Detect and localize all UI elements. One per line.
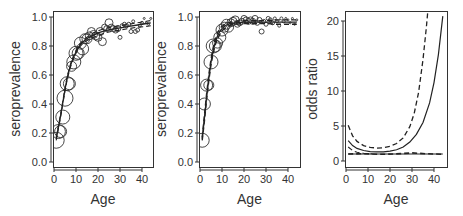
y-tick-label: 0.8 (178, 40, 193, 52)
y-tick-label: 10 (327, 85, 339, 97)
y-tick-label: 0.2 (178, 127, 193, 139)
data-point (259, 29, 264, 34)
data-point (150, 17, 152, 19)
x-tick-label: 40 (282, 173, 294, 185)
x-tick-label: 0 (51, 173, 57, 185)
plot-area (48, 17, 152, 148)
x-tick-label: 40 (428, 173, 440, 185)
plot-area (195, 15, 298, 147)
panel-seroprevalence-left: 010203040Age0.00.20.40.60.81.0seropreval… (7, 11, 154, 207)
y-axis: 0.00.20.40.60.81.0 (32, 11, 53, 168)
data-points (48, 17, 152, 148)
y-axis: 0.00.20.40.60.81.0 (178, 11, 199, 168)
x-tick-label: 40 (136, 173, 148, 185)
y-tick-label: 0.8 (32, 40, 47, 52)
x-tick-label: 30 (260, 173, 272, 185)
panel-seroprevalence-middle: 010203040Age0.00.20.40.60.81.0seropreval… (153, 11, 301, 207)
x-axis: 010203040 (197, 168, 294, 185)
x-axis: 010203040 (51, 168, 148, 185)
data-point (132, 20, 135, 23)
x-tick-label: 20 (92, 173, 104, 185)
y-axis: 05101520 (327, 15, 345, 167)
data-points (195, 15, 298, 147)
y-tick-label: 0.6 (32, 69, 47, 81)
series-solid-line (202, 22, 297, 139)
data-point (129, 30, 133, 34)
chart-canvas: 010203040Age0.00.20.40.60.81.0seropreval… (0, 0, 463, 216)
x-tick-label: 30 (406, 173, 418, 185)
panel-odds-ratio-right: 010203040Age05101520odds ratio (304, 4, 448, 208)
x-axis-label: Age (384, 191, 409, 207)
x-tick-label: 10 (216, 173, 228, 185)
y-tick-label: 1.0 (178, 11, 193, 23)
y-tick-label: 0.0 (178, 156, 193, 168)
series-solid-line (348, 16, 443, 152)
data-point (56, 110, 70, 124)
figure: 010203040Age0.00.20.40.60.81.0seropreval… (0, 0, 463, 216)
data-point (285, 17, 287, 19)
series-solid-line (56, 23, 151, 139)
series-dashed-line (348, 147, 372, 154)
y-tick-label: 0 (333, 155, 339, 167)
series-dashed-line (56, 26, 151, 141)
y-axis-label: seroprevalence (7, 41, 23, 137)
x-tick-label: 0 (343, 173, 349, 185)
y-tick-label: 0.0 (32, 156, 47, 168)
x-tick-label: 10 (362, 173, 374, 185)
y-tick-label: 5 (333, 120, 339, 132)
x-tick-label: 30 (114, 173, 126, 185)
series-dashed-line (202, 24, 297, 141)
x-tick-label: 0 (197, 173, 203, 185)
x-tick-label: 10 (70, 173, 82, 185)
y-tick-label: 0.4 (32, 98, 47, 110)
data-point (280, 17, 283, 20)
y-tick-label: 0.6 (178, 69, 193, 81)
series-dashed-line (348, 4, 428, 149)
y-tick-label: 15 (327, 50, 339, 62)
x-tick-label: 20 (384, 173, 396, 185)
x-axis-label: Age (237, 191, 262, 207)
data-point (98, 38, 106, 46)
y-tick-label: 20 (327, 15, 339, 27)
y-tick-label: 0.4 (178, 98, 193, 110)
data-point (296, 19, 298, 21)
data-point (118, 35, 122, 39)
data-point (143, 17, 145, 19)
data-point (291, 17, 293, 19)
y-tick-label: 0.2 (32, 127, 47, 139)
y-axis-label: odds ratio (304, 58, 320, 120)
plot-area (348, 4, 443, 155)
y-axis-label: seroprevalence (153, 41, 169, 137)
x-tick-label: 20 (238, 173, 250, 185)
y-tick-label: 1.0 (32, 11, 47, 23)
data-point (198, 98, 210, 110)
x-axis-label: Age (91, 191, 116, 207)
x-axis: 010203040 (343, 168, 440, 185)
